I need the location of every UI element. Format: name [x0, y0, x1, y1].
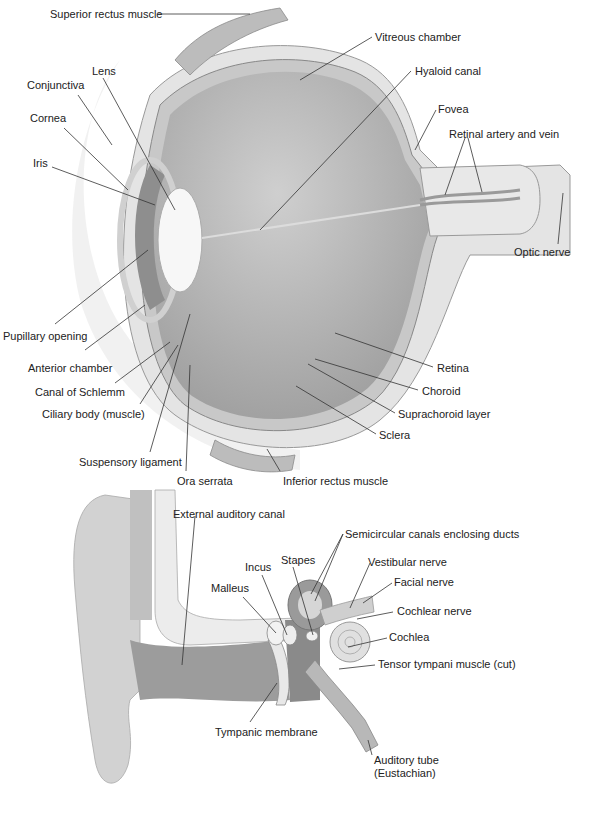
label-retina: Retina	[437, 362, 469, 375]
label-ciliary-body: Ciliary body (muscle)	[42, 408, 145, 421]
label-semicircular-canals: Semicircular canals enclosing ducts	[345, 528, 519, 541]
label-vitreous-chamber: Vitreous chamber	[375, 31, 461, 44]
cochlea-shape	[330, 622, 370, 662]
label-tympanic-membrane: Tympanic membrane	[215, 726, 318, 739]
label-cochlea: Cochlea	[389, 631, 429, 644]
label-cornea: Cornea	[30, 112, 66, 125]
label-tensor-tympani-muscle: Tensor tympani muscle (cut)	[378, 658, 516, 671]
label-superior-rectus-muscle: Superior rectus muscle	[50, 8, 163, 21]
label-incus: Incus	[245, 561, 271, 574]
label-canal-of-schlemm: Canal of Schlemm	[35, 386, 125, 399]
label-conjunctiva: Conjunctiva	[27, 79, 84, 92]
label-stapes: Stapes	[281, 554, 315, 567]
label-ora-serrata: Ora serrata	[177, 475, 233, 488]
label-iris: Iris	[33, 157, 48, 170]
label-retinal-artery-and-vein: Retinal artery and vein	[449, 128, 559, 141]
lens-shape	[158, 188, 202, 292]
ear-canal-shape	[130, 640, 290, 701]
label-pupillary-opening: Pupillary opening	[3, 330, 87, 343]
incus-shape	[283, 625, 297, 645]
label-inferior-rectus-muscle: Inferior rectus muscle	[283, 475, 388, 488]
label-malleus: Malleus	[211, 582, 249, 595]
label-anterior-chamber: Anterior chamber	[28, 362, 112, 375]
label-lens: Lens	[92, 65, 116, 78]
label-vestibular-nerve: Vestibular nerve	[368, 556, 447, 569]
label-auditory-tube: Auditory tube (Eustachian)	[374, 754, 439, 780]
label-suprachoroid-layer: Suprachoroid layer	[398, 408, 490, 421]
label-facial-nerve: Facial nerve	[394, 576, 454, 589]
label-choroid: Choroid	[422, 385, 461, 398]
label-suspensory-ligament: Suspensory ligament	[79, 456, 182, 469]
label-optic-nerve: Optic nerve	[514, 246, 570, 259]
label-cochlear-nerve: Cochlear nerve	[397, 605, 472, 618]
label-fovea: Fovea	[438, 103, 469, 116]
ear-figure	[74, 490, 378, 783]
eye-figure	[72, 8, 570, 472]
label-sclera: Sclera	[379, 429, 410, 442]
skin-column	[130, 490, 152, 620]
label-hyaloid-canal: Hyaloid canal	[415, 65, 481, 78]
label-external-auditory-canal: External auditory canal	[173, 508, 285, 521]
